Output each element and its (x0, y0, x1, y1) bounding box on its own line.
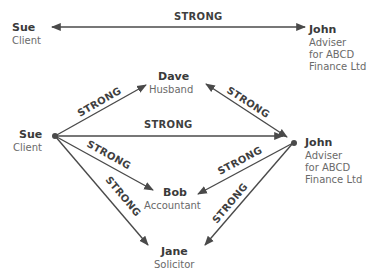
node-sue-name: Sue (19, 128, 42, 141)
node-bob-role: Accountant (144, 200, 201, 211)
edge-dave-john (206, 84, 287, 137)
edge-label-dave-john: STRONG (225, 84, 272, 120)
node-sue-name: Sue (12, 21, 35, 34)
node-jane-name: Jane (160, 245, 188, 258)
node-john-name: John (308, 23, 336, 36)
top-pair: Sue Client STRONG John Adviser for ABCD … (12, 11, 366, 72)
node-bob-name: Bob (163, 186, 187, 199)
node-john-name: John (304, 136, 332, 149)
node-dave-role: Husband (149, 84, 193, 95)
node-john-role-2: for ABCD (305, 162, 350, 173)
node-john-role-1: Adviser (309, 37, 347, 48)
node-sue-role: Client (13, 142, 42, 153)
node-dave-name: Dave (158, 70, 189, 83)
edge-label-sue-john: STRONG (144, 119, 193, 130)
node-sue-role: Client (12, 35, 41, 46)
node-john-role-1: Adviser (305, 150, 343, 161)
edge-label-john-jane: STRONG (210, 181, 250, 225)
edge-sue-dave (55, 85, 146, 136)
relationship-diagram: Sue Client STRONG John Adviser for ABCD … (0, 0, 387, 279)
node-john-dot (291, 140, 297, 146)
node-john-role-2: for ABCD (309, 49, 354, 60)
node-john-role-3: Finance Ltd (305, 174, 362, 185)
node-john-role-3: Finance Ltd (309, 61, 366, 72)
node-jane-role: Solicitor (154, 259, 195, 270)
edge-label-top: STRONG (174, 11, 223, 22)
node-sue-dot (52, 133, 58, 139)
network: STRONG STRONG STRONG STRONG STRONG STRON… (13, 70, 362, 270)
